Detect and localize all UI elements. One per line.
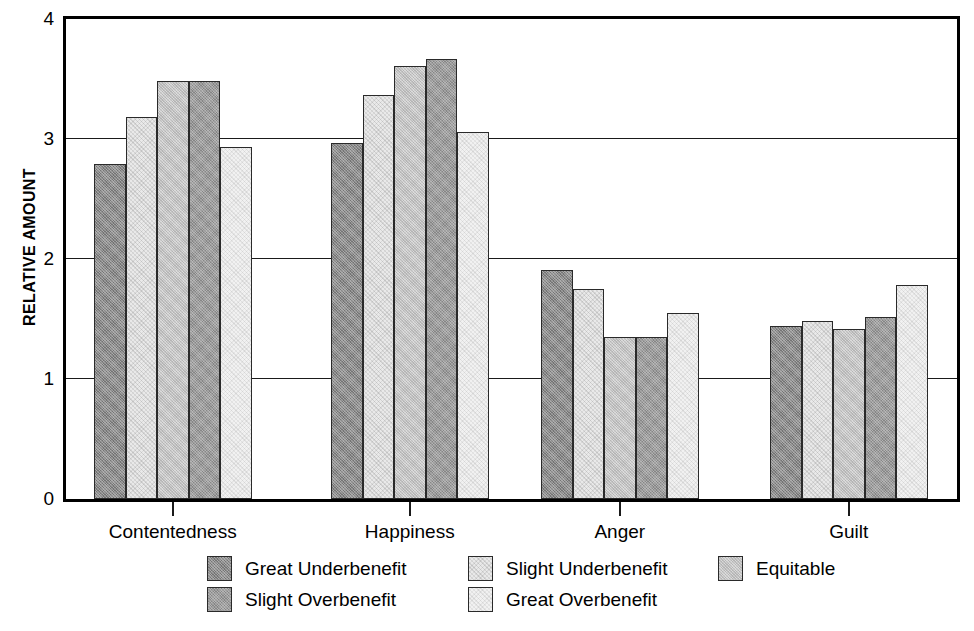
legend-swatch-icon (468, 587, 493, 612)
bar (457, 132, 489, 499)
plot-area (63, 16, 960, 502)
legend-label: Great Underbenefit (245, 558, 407, 579)
legend-label: Slight Underbenefit (506, 558, 668, 579)
legend-item[interactable]: Equitable (718, 556, 835, 581)
bar (541, 270, 573, 499)
bar (573, 289, 605, 499)
legend-swatch-icon (718, 556, 743, 581)
legend-item[interactable]: Slight Underbenefit (468, 556, 668, 581)
bar (157, 81, 189, 499)
bar (604, 337, 636, 499)
plot-inner (66, 19, 957, 499)
x-tick-0 (172, 502, 174, 516)
bar (770, 326, 802, 499)
bar (220, 147, 252, 499)
bar (865, 317, 897, 499)
bar (363, 95, 395, 499)
bar (667, 313, 699, 499)
bar (802, 321, 834, 499)
x-tick-3 (848, 502, 850, 516)
chart-legend: Great UnderbenefitSlight OverbenefitSlig… (0, 556, 974, 626)
legend-swatch-icon (207, 556, 232, 581)
x-axis-label-guilt: Guilt (719, 521, 974, 543)
legend-swatch-icon (207, 587, 232, 612)
bar (394, 66, 426, 499)
bar (636, 337, 668, 499)
bar (426, 59, 458, 499)
x-axis-label-anger: Anger (490, 521, 750, 543)
legend-item[interactable]: Slight Overbenefit (207, 587, 396, 612)
x-axis-label-contentedness: Contentedness (43, 521, 303, 543)
bar (189, 81, 221, 499)
bar (833, 329, 865, 499)
y-tick-label-4: 4 (24, 9, 54, 28)
legend-label: Great Overbenefit (506, 589, 657, 610)
legend-label: Equitable (756, 558, 835, 579)
bar (94, 164, 126, 499)
y-axis-title: RELATIVE AMOUNT (21, 67, 39, 427)
x-tick-2 (619, 502, 621, 516)
legend-item[interactable]: Great Underbenefit (207, 556, 407, 581)
x-tick-1 (409, 502, 411, 516)
y-tick-label-0: 0 (24, 489, 54, 508)
bar (126, 117, 158, 499)
bar (331, 143, 363, 499)
legend-item[interactable]: Great Overbenefit (468, 587, 657, 612)
bar (896, 285, 928, 499)
bar-chart-figure: RELATIVE AMOUNT 01234 ContentednessHappi… (0, 0, 974, 631)
legend-label: Slight Overbenefit (245, 589, 396, 610)
legend-swatch-icon (468, 556, 493, 581)
